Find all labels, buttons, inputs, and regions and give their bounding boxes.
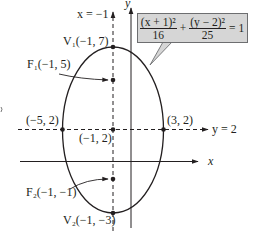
label-y-axis: y [124,0,131,10]
x-term-numerator: (x + 1)² [140,16,177,29]
label-right-vertex: (3, 2) [167,113,193,127]
label-x-eq-minus-1: x = −1 [77,7,109,21]
equation-callout: (x + 1)² 16 + (y − 2)² 25 = 1 [137,13,248,43]
edge-mark [1,107,2,112]
label-f2: F₂(−1, −1) [26,185,76,199]
label-center: (−1, 2) [79,131,112,145]
fraction-x-term: (x + 1)² 16 [140,16,177,41]
label-x-axis: x [207,154,214,168]
label-v2: V₂(−1, −3) [63,213,115,227]
plus-sign: + [179,22,188,34]
point-right-vertex [161,127,166,132]
point-f1 [111,78,116,83]
point-v1 [111,45,116,50]
callout-pointer [150,42,172,65]
y-term-denominator: 25 [201,29,215,41]
point-f2 [111,177,116,182]
label-y-eq-2: y = 2 [212,122,237,136]
equals-one: = 1 [228,22,245,34]
label-f1: F₁(−1, 5) [27,57,71,71]
x-term-denominator: 16 [152,29,166,41]
label-v1: V₁(−1, 7) [63,34,109,48]
y-term-numerator: (y − 2)² [189,16,226,29]
arrow-f1 [59,74,108,80]
fraction-y-term: (y − 2)² 25 [189,16,226,41]
point-left-vertex [60,127,65,132]
label-left-vertex: (−5, 2) [26,113,59,127]
